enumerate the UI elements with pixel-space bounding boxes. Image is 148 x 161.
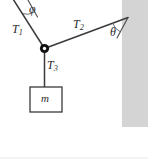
label-tension-1-subscript: 1 xyxy=(19,28,23,37)
label-tension-3-subscript: 3 xyxy=(54,64,58,73)
label-tension-2: T2 xyxy=(73,18,84,30)
label-mass: m xyxy=(41,93,49,104)
label-tension-1: T1 xyxy=(12,23,23,35)
knot-joint-center xyxy=(43,47,46,50)
label-angle-theta: θ xyxy=(110,26,116,38)
label-tension-3-symbol: T xyxy=(47,58,54,72)
physics-free-body-diagram: T1 T2 T3 m φ θ xyxy=(0,0,148,161)
label-tension-3: T3 xyxy=(47,59,58,71)
label-tension-2-symbol: T xyxy=(73,17,80,31)
label-angle-phi: φ xyxy=(29,3,36,15)
label-tension-1-symbol: T xyxy=(12,22,19,36)
label-tension-2-subscript: 2 xyxy=(80,23,84,32)
